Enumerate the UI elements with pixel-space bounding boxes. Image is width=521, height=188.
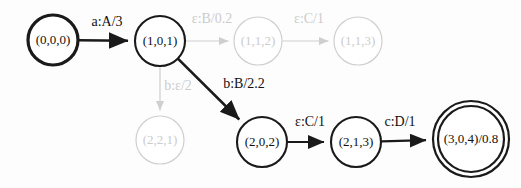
state-label: (3,0,4)/0.8 <box>444 131 499 146</box>
state-node[interactable]: (2,2,1) <box>136 116 184 164</box>
fsa-canvas: (0,0,0)(1,0,1)(1,1,2)(1,1,3)(2,2,1)(2,0,… <box>0 0 521 188</box>
state-label: (1,1,2) <box>241 33 276 48</box>
edge-label: a:A/3 <box>91 14 122 29</box>
edge-label: ε:B/0.2 <box>192 11 233 26</box>
fsa-diagram: (0,0,0)(1,0,1)(1,1,2)(1,1,3)(2,2,1)(2,0,… <box>0 0 521 188</box>
state-label: (2,0,2) <box>245 134 280 149</box>
state-label: (1,0,1) <box>143 33 178 48</box>
state-node[interactable]: (1,1,2) <box>234 17 282 65</box>
state-node[interactable]: (3,0,4)/0.8 <box>433 101 509 177</box>
state-node[interactable]: (0,0,0) <box>28 15 78 65</box>
state-node[interactable]: (2,1,3) <box>331 117 381 167</box>
state-node[interactable]: (1,0,1) <box>135 16 185 66</box>
state-label: (2,1,3) <box>339 134 374 149</box>
state-node[interactable]: (2,0,2) <box>237 117 287 167</box>
edge-label: ε:C/1 <box>294 11 324 26</box>
state-label: (2,2,1) <box>143 132 178 147</box>
edge-label: c:D/1 <box>384 114 415 129</box>
edge-line <box>381 140 426 141</box>
edge-label: b:ε/2 <box>164 78 192 93</box>
edge-label: ε:C/1 <box>295 114 325 129</box>
edge-label: b:B/2.2 <box>223 76 265 91</box>
edge-n6-n7[interactable] <box>381 140 426 141</box>
state-label: (1,1,3) <box>341 33 376 48</box>
state-node[interactable]: (1,1,3) <box>334 17 382 65</box>
state-label: (0,0,0) <box>36 32 71 47</box>
